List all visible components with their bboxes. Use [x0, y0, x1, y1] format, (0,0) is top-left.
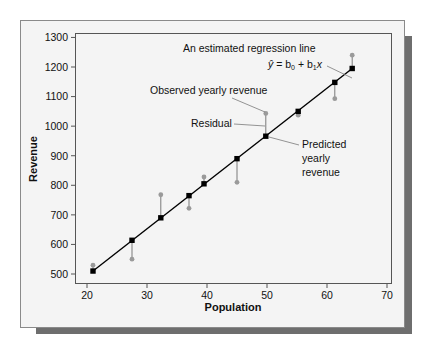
y-tick-label: 1000	[45, 120, 69, 132]
y-tick-label: 600	[50, 238, 68, 250]
predicted-point	[296, 109, 301, 114]
x-tick-label: 70	[381, 289, 393, 301]
annotation-predicted-3: revenue	[302, 166, 340, 178]
observed-point	[187, 206, 192, 211]
predicted-point	[234, 156, 239, 161]
predicted-point	[158, 215, 163, 220]
observed-point	[332, 96, 337, 101]
frame-shadow-bottom	[36, 328, 412, 334]
annotation-predicted-1: Predicted	[302, 138, 347, 150]
y-tick-label: 700	[50, 209, 68, 221]
x-tick-label: 20	[81, 289, 93, 301]
frame-shadow-right	[405, 36, 412, 334]
y-tick-label: 800	[50, 179, 68, 191]
regression-chart: 5006007008009001000110012001300 20304050…	[0, 0, 426, 348]
x-tick-label: 40	[201, 289, 213, 301]
y-axis-label: Revenue	[27, 136, 39, 182]
annotation-residual: Residual	[191, 117, 232, 129]
eq-part: = b	[273, 58, 291, 70]
predicted-point	[263, 134, 268, 139]
y-tick-label: 900	[50, 150, 68, 162]
observed-point	[350, 53, 355, 58]
observed-point	[202, 175, 207, 180]
x-axis-label: Population	[205, 301, 262, 313]
eq-plus: + b	[295, 58, 313, 70]
predicted-point	[201, 181, 206, 186]
y-tick-label: 1200	[45, 61, 69, 73]
observed-point	[158, 192, 163, 197]
observed-point	[130, 257, 135, 262]
y-tick-label: 1100	[45, 90, 68, 102]
predicted-point	[350, 66, 355, 71]
plot-area	[76, 34, 392, 284]
y-tick-label: 1300	[45, 31, 69, 43]
predicted-point	[186, 193, 191, 198]
x-tick-label: 60	[321, 289, 333, 301]
observed-point	[235, 180, 240, 185]
observed-point	[91, 263, 96, 268]
predicted-point	[90, 268, 95, 273]
annotation-predicted-2: yearly	[302, 152, 331, 164]
x-tick-label: 50	[261, 289, 273, 301]
predicted-point	[129, 238, 134, 243]
annotation-observed: Observed yearly revenue	[150, 84, 267, 96]
x-tick-label: 30	[141, 289, 153, 301]
predicted-point	[332, 80, 337, 85]
eq-x: x	[316, 58, 323, 70]
y-tick-label: 500	[50, 268, 68, 280]
chart-figure: 5006007008009001000110012001300 20304050…	[0, 0, 426, 348]
annotation-regression-line: An estimated regression line	[183, 42, 316, 54]
